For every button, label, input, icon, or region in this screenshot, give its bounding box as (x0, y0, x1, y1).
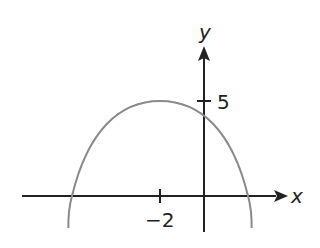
y-tick-label: 5 (217, 90, 230, 114)
x-axis-label: x (290, 184, 303, 208)
x-axis-arrow-icon (274, 190, 288, 202)
x-tick-label: −2 (145, 208, 174, 232)
chart: x y −2 5 (0, 0, 320, 248)
y-axis-label: y (198, 20, 212, 44)
